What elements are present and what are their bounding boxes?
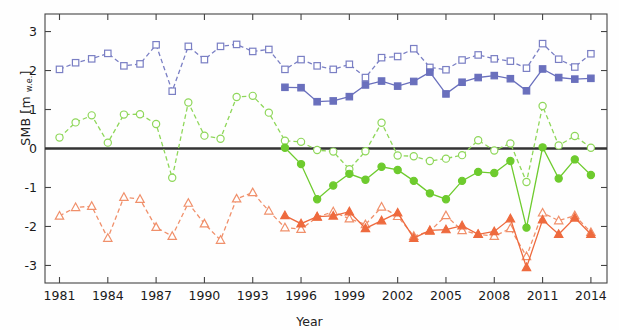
data-point-marker	[217, 43, 223, 49]
svg-text:-1: -1	[25, 180, 37, 195]
data-point-marker	[587, 171, 594, 178]
data-point-marker	[56, 66, 62, 72]
series-orange-open-dashed	[55, 188, 595, 260]
svg-text:-3: -3	[25, 258, 37, 273]
data-point-marker	[104, 139, 111, 146]
data-point-marker	[362, 176, 369, 183]
svg-text:1999: 1999	[333, 288, 365, 303]
data-point-marker	[330, 66, 336, 72]
svg-text:2008: 2008	[478, 288, 510, 303]
data-point-marker	[232, 194, 240, 202]
data-point-marker	[410, 177, 417, 184]
data-point-marker	[459, 79, 465, 85]
data-point-marker	[136, 111, 143, 118]
data-point-marker	[314, 99, 320, 105]
data-point-marker	[282, 66, 288, 72]
data-point-marker	[506, 214, 514, 222]
series-blue-filled-solid	[282, 66, 594, 105]
data-point-marker	[507, 58, 513, 64]
svg-text:1990: 1990	[189, 288, 221, 303]
data-point-marker	[120, 193, 128, 201]
data-point-marker	[120, 111, 127, 118]
data-point-marker	[539, 144, 546, 151]
series-orange-filled-solid	[281, 207, 595, 270]
data-point-marker	[281, 137, 288, 144]
data-point-marker	[394, 53, 400, 59]
data-point-marker	[169, 88, 175, 94]
smb-timeseries-figure: SMB [m w.e.] -3-2-1012319811984198719901…	[0, 0, 619, 330]
data-point-marker	[394, 83, 400, 89]
data-point-marker	[72, 119, 79, 126]
x-axis-label: Year	[0, 314, 619, 329]
data-point-marker	[442, 155, 449, 162]
data-point-marker	[137, 61, 143, 67]
data-point-marker	[523, 88, 529, 94]
data-point-marker	[411, 78, 417, 84]
series-green-open-dashed	[56, 92, 595, 185]
data-point-marker	[297, 219, 305, 227]
data-point-marker	[555, 74, 561, 80]
data-point-marker	[152, 223, 160, 231]
data-point-marker	[281, 144, 288, 151]
data-point-marker	[136, 195, 144, 203]
data-point-marker	[184, 199, 192, 207]
data-point-marker	[378, 78, 384, 84]
data-point-marker	[88, 56, 94, 62]
data-point-marker	[442, 196, 449, 203]
data-point-marker	[571, 156, 578, 163]
data-point-marker	[377, 203, 385, 211]
data-point-marker	[298, 84, 304, 90]
data-point-marker	[297, 160, 304, 167]
data-point-marker	[346, 170, 353, 177]
data-point-marker	[523, 65, 529, 71]
data-point-marker	[443, 91, 449, 97]
chart-canvas: -3-2-10123198119841987199019931996199920…	[0, 0, 619, 330]
data-point-marker	[491, 169, 498, 176]
data-point-marker	[523, 178, 530, 185]
data-point-marker	[522, 263, 530, 271]
data-point-marker	[72, 60, 78, 66]
data-point-marker	[523, 224, 530, 231]
data-point-marker	[426, 157, 433, 164]
data-point-marker	[572, 76, 578, 82]
data-point-marker	[555, 56, 561, 62]
y-axis-label: SMB [m w.e.]	[18, 38, 34, 178]
data-point-marker	[555, 175, 562, 182]
data-point-marker	[281, 211, 289, 219]
data-point-marker	[377, 216, 385, 224]
data-point-marker	[394, 152, 401, 159]
data-point-marker	[71, 203, 79, 211]
data-point-marker	[491, 56, 497, 62]
data-point-marker	[426, 190, 433, 197]
data-point-marker	[458, 221, 466, 229]
data-point-marker	[410, 153, 417, 160]
data-point-marker	[346, 93, 352, 99]
svg-text:3: 3	[29, 24, 37, 39]
data-point-marker	[153, 120, 160, 127]
data-point-marker	[297, 138, 304, 145]
data-point-marker	[475, 137, 482, 144]
data-point-marker	[346, 61, 352, 67]
data-point-marker	[507, 157, 514, 164]
data-point-marker	[249, 188, 257, 196]
series-blue-open-dashed	[56, 40, 594, 94]
data-point-marker	[233, 93, 240, 100]
data-point-marker	[200, 219, 208, 227]
data-point-marker	[250, 48, 256, 54]
data-point-marker	[266, 46, 272, 52]
data-point-marker	[55, 212, 63, 220]
data-point-marker	[507, 76, 513, 82]
data-point-marker	[249, 92, 256, 99]
y-axis-label-base: SMB [m	[18, 92, 33, 146]
data-point-marker	[507, 140, 514, 147]
data-point-marker	[330, 182, 337, 189]
data-point-marker	[491, 72, 497, 78]
data-point-marker	[475, 74, 481, 80]
data-point-marker	[330, 148, 337, 155]
data-point-marker	[459, 57, 465, 63]
svg-text:1987: 1987	[140, 288, 172, 303]
data-point-marker	[362, 148, 369, 155]
series-green-filled-solid	[281, 144, 594, 232]
y-axis-label-subscript: w.e.	[25, 75, 34, 92]
data-point-marker	[185, 43, 191, 49]
